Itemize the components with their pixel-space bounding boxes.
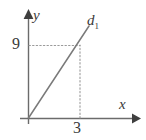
- line-label-subscript: 1: [95, 21, 100, 31]
- y-axis-arrowhead-icon: [24, 9, 34, 19]
- line-d1: [29, 26, 90, 118]
- x-axis-arrowhead-icon: [132, 114, 141, 124]
- coordinate-graph-figure: y x 9 3 d1: [0, 0, 146, 140]
- y-tick-label-9: 9: [12, 36, 20, 52]
- line-label-d1: d1: [87, 13, 99, 31]
- y-axis-label: y: [33, 8, 40, 23]
- y-axis: [24, 9, 34, 124]
- x-tick-label-3: 3: [73, 120, 81, 136]
- line-label-base: d: [87, 12, 95, 28]
- x-axis-label: x: [119, 97, 126, 112]
